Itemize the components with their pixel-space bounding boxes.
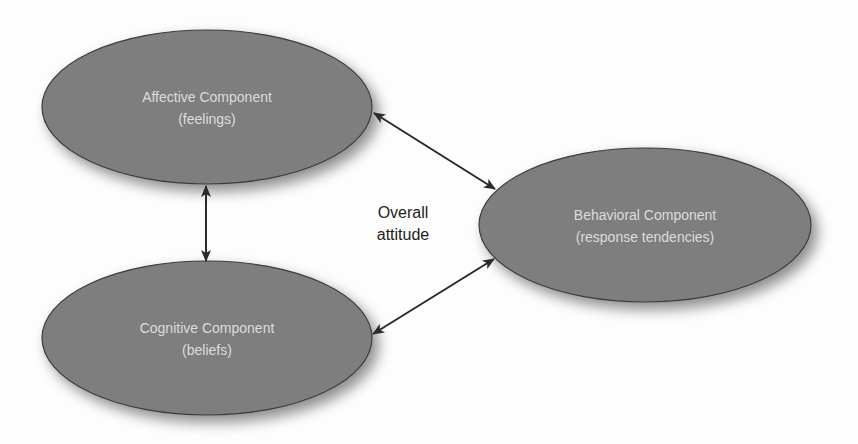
diagram-canvas: Affective Component (feelings) Cognitive… <box>0 0 858 444</box>
cognitive-ellipse <box>42 261 372 415</box>
node-cognitive <box>42 261 372 415</box>
overall-attitude-line2: attitude <box>377 224 429 246</box>
affective-ellipse <box>42 30 372 184</box>
node-affective <box>42 30 372 184</box>
behavioral-ellipse <box>479 148 811 302</box>
arrow-cognitive-behavioral <box>373 259 494 334</box>
overall-attitude-line1: Overall <box>377 202 429 224</box>
node-behavioral <box>479 148 811 302</box>
overall-attitude-label: Overall attitude <box>377 202 429 246</box>
arrow-affective-behavioral <box>374 113 495 189</box>
